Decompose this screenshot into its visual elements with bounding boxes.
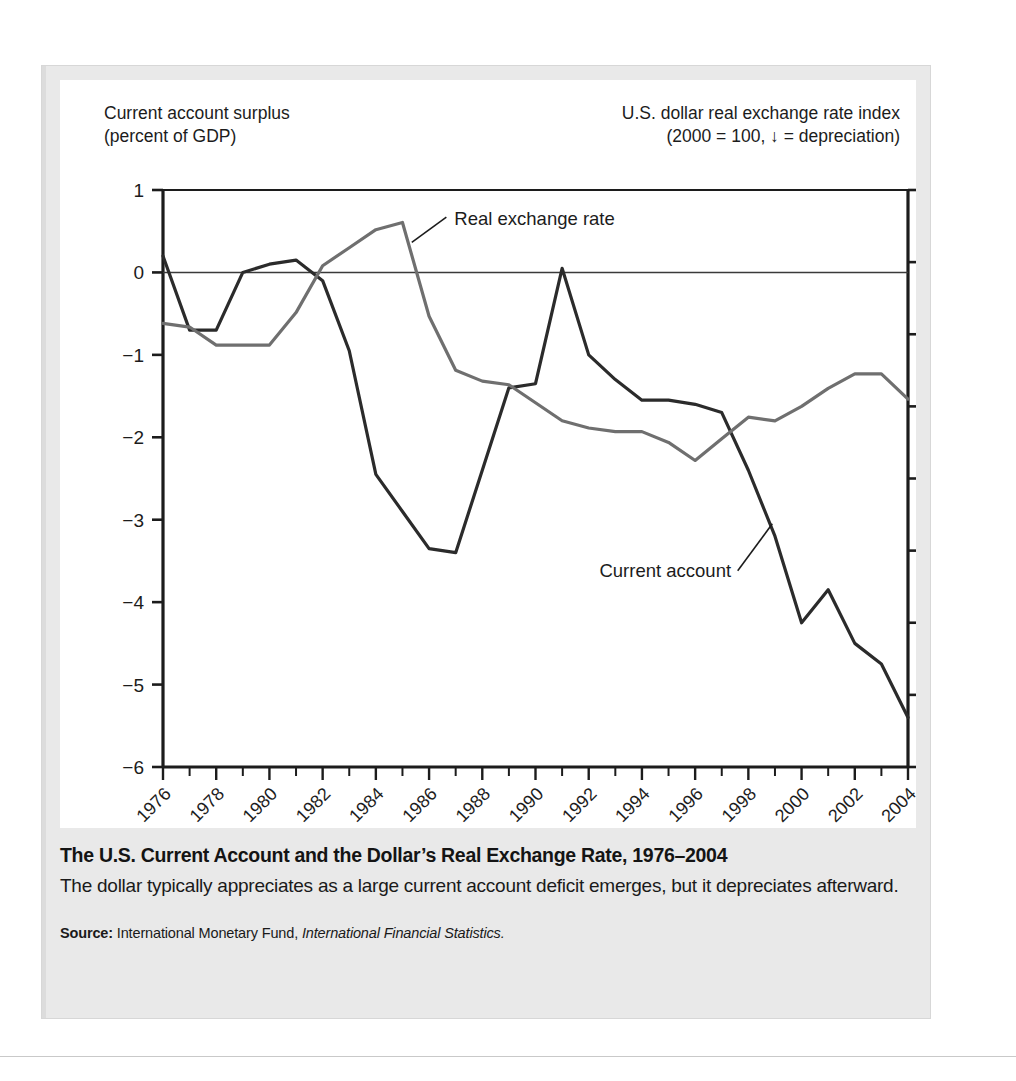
- source-text: International Monetary Fund,: [117, 925, 298, 941]
- plot-panel: Current account surplus (percent of GDP)…: [60, 80, 916, 828]
- y-tick-label-left: −5: [122, 675, 144, 696]
- annotation-real-exchange-rate: Real exchange rate: [454, 208, 614, 229]
- line-chart: 10−1−2−3−4−5−616014012010080604020019761…: [60, 80, 916, 828]
- x-tick-label: 1982: [292, 784, 334, 826]
- x-tick-label: 1992: [558, 784, 600, 826]
- caption-description: The dollar typically appreciates as a la…: [60, 872, 902, 899]
- x-tick-label: 1976: [132, 784, 174, 826]
- source-publication: International Financial Statistics.: [302, 925, 505, 941]
- annotation-current-account: Current account: [599, 560, 731, 581]
- annotation-leader-real-exchange-rate: [412, 217, 447, 242]
- y-tick-label-left: 1: [133, 180, 144, 201]
- x-tick-label: 1988: [452, 784, 494, 826]
- x-tick-label: 1986: [398, 784, 440, 826]
- page-bottom-rule: [0, 1056, 1016, 1057]
- card-left-edge: [42, 66, 46, 1018]
- caption-title: The U.S. Current Account and the Dollar’…: [60, 844, 916, 867]
- y-tick-label-left: −6: [122, 757, 144, 778]
- y-tick-label-left: −3: [122, 510, 144, 531]
- x-tick-label: 1998: [718, 784, 760, 826]
- x-tick-label: 2000: [771, 784, 813, 826]
- y-tick-label-left: −1: [122, 345, 144, 366]
- x-tick-label: 1978: [186, 784, 228, 826]
- y-tick-label-left: −2: [122, 427, 144, 448]
- y-tick-label-left: −4: [122, 592, 144, 613]
- x-tick-label: 1994: [611, 784, 653, 826]
- figure-card: Current account surplus (percent of GDP)…: [42, 66, 930, 1018]
- annotation-leader-current-account: [738, 524, 773, 571]
- y-tick-label-left: 0: [133, 262, 144, 283]
- x-tick-label: 1984: [345, 784, 387, 826]
- x-tick-label: 2002: [824, 784, 866, 826]
- source-line: Source: International Monetary Fund, Int…: [60, 925, 916, 941]
- x-tick-label: 1996: [665, 784, 707, 826]
- caption-block: The U.S. Current Account and the Dollar’…: [60, 844, 916, 941]
- series-line-real-exchange-rate: [163, 222, 908, 460]
- x-tick-label: 2004: [877, 784, 916, 826]
- x-tick-label: 1980: [239, 784, 281, 826]
- source-label: Source:: [60, 925, 113, 941]
- series-line-current-account: [163, 256, 908, 718]
- x-tick-label: 1990: [505, 784, 547, 826]
